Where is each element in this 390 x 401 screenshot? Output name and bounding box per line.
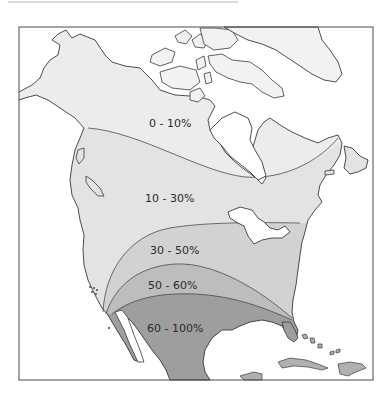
band-label-60-100: 60 - 100%	[147, 322, 203, 335]
map-canvas: 0 - 10% 10 - 30% 30 - 50% 50 - 60% 60 - …	[0, 0, 390, 401]
island-bahamas	[310, 338, 315, 343]
island-bahamas	[330, 351, 334, 355]
band-label-0-10: 0 - 10%	[149, 117, 191, 130]
band-label-10-30: 10 - 30%	[145, 192, 194, 205]
band-label-30-50: 30 - 50%	[150, 244, 199, 257]
cropped-caption-strip	[8, 0, 238, 6]
island-bahamas	[318, 344, 322, 348]
pei-island	[325, 170, 334, 175]
north-america-map: 0 - 10% 10 - 30% 30 - 50% 50 - 60% 60 - …	[0, 0, 390, 401]
band-label-50-60: 50 - 60%	[148, 279, 197, 292]
island-bahamas	[336, 349, 340, 353]
